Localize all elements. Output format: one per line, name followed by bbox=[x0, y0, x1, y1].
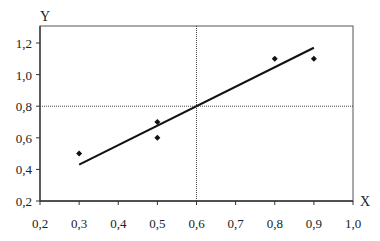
diamond-marker bbox=[76, 151, 82, 157]
x-tick-label: 0,2 bbox=[32, 216, 48, 231]
x-tick-label: 0,7 bbox=[228, 216, 245, 231]
x-tick-label: 1,0 bbox=[345, 216, 361, 231]
y-axis-ticks: 0,20,40,60,81,01,2 bbox=[16, 36, 40, 209]
x-axis-title: X bbox=[360, 194, 370, 209]
diamond-marker bbox=[154, 135, 160, 141]
y-tick-label: 0,2 bbox=[16, 194, 32, 209]
x-tick-label: 0,4 bbox=[110, 216, 127, 231]
x-tick-label: 0,9 bbox=[306, 216, 322, 231]
y-tick-label: 0,6 bbox=[16, 131, 33, 146]
diamond-marker bbox=[272, 56, 278, 62]
x-tick-label: 0,5 bbox=[149, 216, 165, 231]
scatter-chart: 0,20,30,40,50,60,70,80,91,0 0,20,40,60,8… bbox=[0, 0, 380, 241]
y-tick-label: 0,8 bbox=[16, 99, 32, 114]
y-tick-label: 0,4 bbox=[16, 162, 33, 177]
diamond-marker bbox=[311, 56, 317, 62]
x-tick-label: 0,3 bbox=[71, 216, 87, 231]
x-tick-label: 0,8 bbox=[267, 216, 283, 231]
y-tick-label: 1,0 bbox=[16, 68, 32, 83]
x-axis-ticks: 0,20,30,40,50,60,70,80,91,0 bbox=[32, 201, 361, 231]
y-tick-label: 1,2 bbox=[16, 36, 32, 51]
y-axis-title: Y bbox=[40, 9, 50, 24]
x-tick-label: 0,6 bbox=[188, 216, 205, 231]
